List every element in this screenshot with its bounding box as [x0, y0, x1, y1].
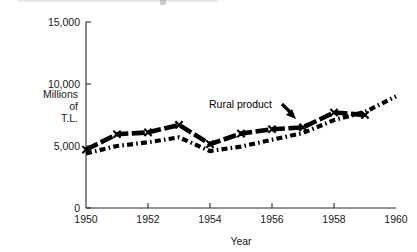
- x-axis-title: Year: [230, 235, 252, 247]
- y-tick-label: 5,000: [54, 140, 80, 152]
- x-tick-label: 1954: [198, 213, 222, 225]
- annotation-arrow-icon: [282, 104, 296, 119]
- axes-group: [86, 22, 396, 208]
- x-tick-group: [148, 203, 334, 208]
- y-tick-group: [86, 22, 91, 208]
- y-axis-title-line-1: Millions: [43, 88, 78, 100]
- annotation-rural-product: Rural product: [209, 98, 296, 119]
- annotation-label: Rural product: [209, 98, 272, 110]
- x-tick-label-group: 195019521954195619581960: [74, 213, 408, 225]
- y-axis-title: Millions of T.L.: [43, 88, 78, 124]
- x-tick-label: 1958: [322, 213, 346, 225]
- x-tick-label: 1956: [260, 213, 284, 225]
- y-tick-label: 15,000: [48, 16, 80, 28]
- x-tick-label: 1952: [136, 213, 160, 225]
- x-tick-label: 1960: [384, 213, 408, 225]
- line-chart: 05,00010,00015,000 195019521954195619581…: [0, 0, 417, 252]
- y-tick-label: 0: [74, 202, 80, 214]
- chart-figure: 05,00010,00015,000 195019521954195619581…: [0, 0, 417, 252]
- y-axis-title-line-3: T.L.: [61, 112, 78, 124]
- x-tick-label: 1950: [74, 213, 98, 225]
- y-axis-title-line-2: of: [69, 100, 78, 112]
